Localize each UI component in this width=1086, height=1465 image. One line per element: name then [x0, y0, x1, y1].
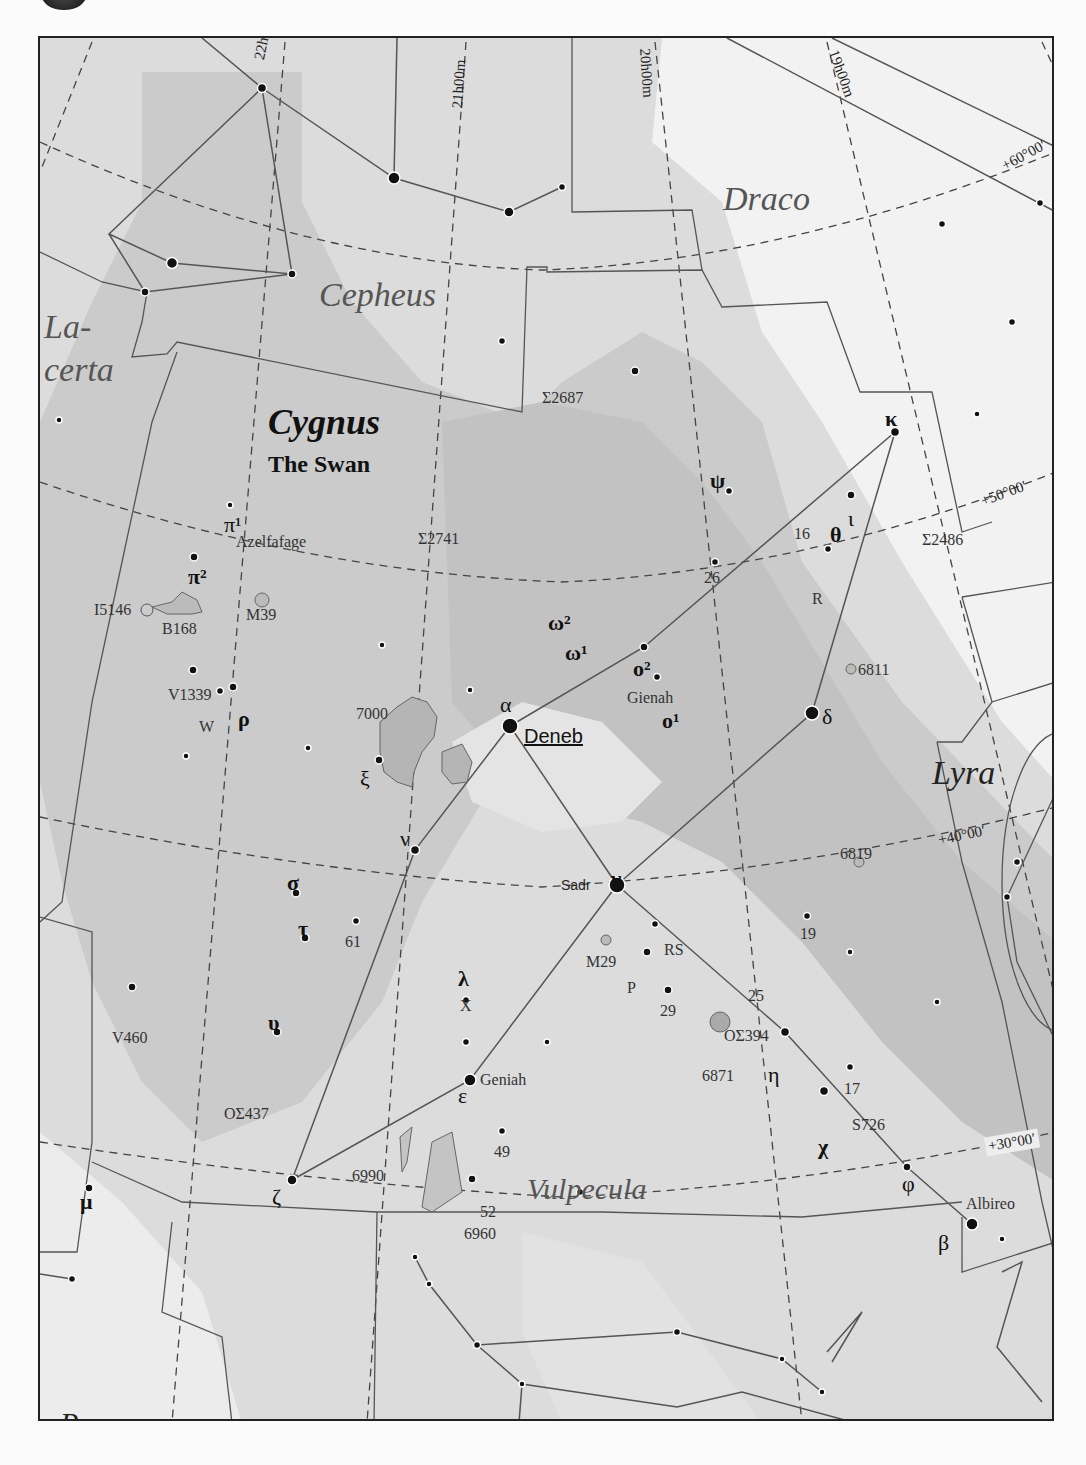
star-RS-label: RS: [664, 942, 684, 958]
page-corner-mark: [42, 0, 86, 10]
star-29-label: 29: [660, 1003, 676, 1019]
object-s2741-label: Σ2741: [418, 531, 459, 547]
star-16-label: 16: [794, 526, 810, 542]
star-26-label: 26: [704, 570, 720, 586]
star-albireo-label: Albireo: [966, 1196, 1015, 1212]
object-ngc6819-label: 6819: [840, 846, 872, 862]
star-omega2-label: ω²: [548, 612, 571, 634]
label-vulpecula: Vulpecula: [527, 1174, 646, 1204]
star-pi2-label: π²: [188, 566, 207, 588]
object-b168-label: B168: [162, 621, 197, 637]
m39-cluster-icon: [255, 593, 269, 607]
star-52-label: 52: [480, 1204, 496, 1220]
object-os437-label: OΣ437: [224, 1106, 269, 1122]
star-iota-label: ι: [848, 508, 854, 530]
constellation-subtitle: The Swan: [268, 452, 370, 476]
constellation-title: Cygnus: [268, 404, 380, 440]
star-psi-label: ψ: [710, 470, 725, 492]
label-draco: Draco: [723, 182, 810, 216]
object-m29-label: M29: [586, 954, 616, 970]
star-49-label: 49: [494, 1144, 510, 1160]
star-mu-label: μ: [80, 1191, 92, 1213]
star-eta-label: η: [768, 1064, 780, 1086]
star-o1-label: o¹: [662, 710, 680, 732]
object-ngc6960-label: 6960: [464, 1226, 496, 1242]
star-nu-label: ν: [400, 828, 410, 850]
star-R-label: R: [812, 591, 823, 607]
label-lacerta-2: certa: [44, 353, 114, 387]
object-s2687-label: Σ2687: [542, 390, 583, 406]
star-gienah-label: Gienah: [627, 690, 673, 706]
star-kappa-label: κ: [885, 408, 897, 430]
object-i5146-label: I5146: [94, 602, 131, 618]
star-gamma-label: γ: [611, 868, 621, 890]
star-W-label: W: [199, 719, 214, 735]
label-pegasus: Pegasus: [60, 1408, 160, 1421]
star-epsilon-label: ε: [458, 1085, 467, 1107]
object-ngc6871-label: 6871: [702, 1068, 734, 1084]
star-omega1-label: ω¹: [565, 642, 588, 664]
ic5146-icon: [141, 604, 153, 616]
star-S726-label: S726: [852, 1117, 885, 1133]
star-o2-label: o²: [633, 658, 651, 680]
object-ngc7000-label: 7000: [356, 706, 388, 722]
object-ngc6990-label: 6990: [352, 1168, 384, 1184]
label-lacerta-1: La-: [44, 310, 91, 344]
label-lyra: Lyra: [932, 756, 995, 790]
star-lambda-label: λ: [458, 968, 469, 990]
star-upsilon-label: υ: [268, 1012, 279, 1034]
star-zeta-label: ζ: [272, 1186, 281, 1208]
ngc6811-cluster-icon: [846, 664, 856, 674]
label-cepheus: Cepheus: [319, 278, 436, 312]
star-tau-label: τ: [298, 918, 308, 940]
object-ngc6811-label: 6811: [858, 662, 889, 678]
star-delta-label: δ: [822, 706, 832, 728]
star-P-label: P: [627, 980, 636, 996]
star-61-label: 61: [345, 934, 361, 950]
star-X-label: X: [460, 998, 472, 1014]
star-V460-label: V460: [112, 1030, 148, 1046]
star-rho-label: ρ: [238, 708, 250, 730]
star-deneb-label: Deneb: [524, 726, 583, 746]
star-phi-label: φ: [902, 1173, 915, 1195]
star-17-label: 17: [844, 1081, 860, 1097]
star-sadr-label: Sadr: [561, 878, 591, 892]
star-chart: Cygnus The Swan Cepheus Draco La- certa …: [38, 36, 1054, 1421]
star-azelfafage-label: Azelfafage: [236, 534, 306, 550]
star-alpha-label: α: [500, 694, 512, 716]
star-19-label: 19: [800, 926, 816, 942]
star-xi-label: ξ: [360, 768, 370, 790]
star-chi-label: χ: [818, 1136, 828, 1158]
star-beta-label: β: [938, 1232, 949, 1254]
object-m39-label: M39: [246, 607, 276, 623]
star-theta-label: θ: [830, 524, 841, 546]
object-os394-label: OΣ394: [724, 1028, 769, 1044]
star-geniah-label: Geniah: [480, 1072, 526, 1088]
star-V1339-label: V1339: [168, 687, 212, 703]
ra-label-20h: 20h00m: [637, 48, 655, 98]
m29-cluster-icon: [601, 935, 611, 945]
star-sigma-label: σ: [287, 872, 299, 894]
object-s2486-label: Σ2486: [922, 532, 963, 548]
star-25-label: 25: [748, 988, 764, 1004]
